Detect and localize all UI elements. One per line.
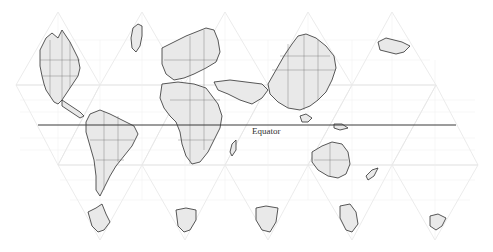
antarctica-2 <box>176 208 196 232</box>
africa <box>160 82 222 164</box>
antarctica-4 <box>340 204 358 232</box>
north-america <box>40 30 80 104</box>
indonesia <box>300 114 312 122</box>
madagascar <box>230 140 236 156</box>
world-map: Equator <box>0 0 493 252</box>
antarctica-5 <box>430 214 446 230</box>
greenland <box>131 24 142 52</box>
new-zealand <box>366 168 378 180</box>
central-america <box>62 100 84 118</box>
northeast-asia <box>378 38 410 54</box>
asia <box>268 34 336 110</box>
equator-label: Equator <box>252 126 281 136</box>
europe <box>162 28 220 80</box>
landmasses <box>40 24 446 232</box>
south-america <box>86 110 138 196</box>
